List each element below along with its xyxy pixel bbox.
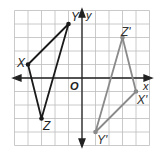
coordinate-plane: x y O X Y Z X' Y' Z' [0,0,159,157]
label-z: Z [42,119,51,133]
x-axis-label: x [142,80,149,92]
axes [13,9,152,147]
label-z-prime: Z' [120,25,131,39]
label-x: X [16,56,26,70]
triangle-xyz-prime [96,38,137,133]
label-y-prime: Y' [97,133,108,147]
label-y: Y [71,10,80,24]
label-x-prime: X' [136,93,148,107]
vertex-x-point [26,62,31,67]
triangle-xyz [28,24,69,119]
origin-label: O [70,80,79,92]
